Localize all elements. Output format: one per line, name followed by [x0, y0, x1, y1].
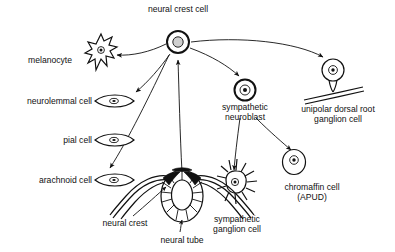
label-neurolemmal-cell: neurolemmal cell: [27, 96, 92, 106]
edge-hub-to-arachnoid: [110, 55, 169, 168]
neural-crest-diagram: neural crest cell melanocyte neurolemmal…: [0, 0, 395, 252]
arachnoid-cell: [95, 174, 134, 186]
label-neural-crest-cell: neural crest cell: [148, 4, 208, 14]
neural-crest-cell-node: [167, 31, 189, 53]
edge-neuroblast-to-chromaffin: [256, 118, 291, 150]
diagram-canvas: neural crest cell melanocyte neurolemmal…: [0, 0, 395, 252]
edge-hub-to-neurolemmal: [136, 54, 170, 92]
label-sympathetic-neuroblast-line2: neuroblast: [225, 112, 266, 122]
label-chromaffin-line1: chromaffin cell: [284, 182, 339, 192]
edge-neuraltube-to-hub: [178, 60, 182, 172]
sympathetic-ganglion-cell: [217, 159, 257, 204]
label-arachnoid-cell: arachnoid cell: [39, 175, 92, 185]
label-sympathetic-neuroblast-line1: sympathetic: [222, 102, 269, 112]
neurolemmal-cell: [95, 95, 134, 107]
sympathetic-neuroblast-cell: [235, 80, 256, 101]
label-unipolar-line2: ganglion cell: [314, 114, 362, 124]
label-sympathetic-ganglion-line1: sympathetic: [214, 214, 261, 224]
melanocyte-cell: [85, 34, 117, 70]
chromaffin-cell: [283, 150, 306, 175]
edge-hub-to-sympathetic-neuroblast: [190, 48, 239, 76]
unipolar-dorsal-root-ganglion-cell: [304, 59, 364, 104]
label-unipolar-line1: unipolar dorsal root: [301, 104, 375, 114]
label-neural-crest: neural crest: [103, 218, 149, 228]
edge-hub-to-unipolar: [191, 40, 323, 57]
label-chromaffin-line2: (APUD): [297, 192, 327, 202]
edge-hub-to-melanocyte: [117, 44, 166, 55]
label-neural-tube: neural tube: [160, 235, 203, 245]
label-melanocyte: melanocyte: [28, 55, 72, 65]
label-pial-cell: pial cell: [63, 135, 92, 145]
label-sympathetic-ganglion-line2: ganglion cell: [213, 224, 261, 234]
pial-cell: [95, 134, 134, 146]
